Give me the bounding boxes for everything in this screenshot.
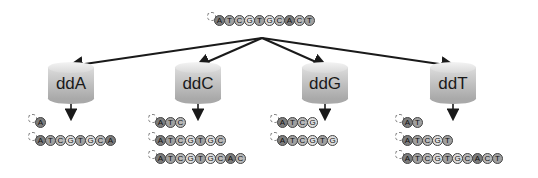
template-strand: ATCGTGCACT <box>207 14 314 27</box>
product-strand: ATCGTGCAC <box>148 152 245 165</box>
reaction-tube-ddG: ddG <box>302 62 348 104</box>
product-strand: ATCG <box>270 116 317 129</box>
tube-label: ddC <box>175 74 221 94</box>
tube-top <box>302 62 348 73</box>
tube-label: ddT <box>430 74 476 94</box>
nucleotide-A: A <box>35 117 46 128</box>
arrow-to-ddT <box>262 38 453 66</box>
nucleotide-G: G <box>307 117 318 128</box>
nucleotide-C: C <box>235 153 246 164</box>
tube-top <box>48 62 94 73</box>
nucleotide-T: T <box>442 135 453 146</box>
nucleotide-T: T <box>412 117 423 128</box>
product-strand: AT <box>395 116 422 129</box>
tube-label: ddA <box>48 74 94 94</box>
nucleotide-C: C <box>175 117 186 128</box>
product-strand: ATCGTG <box>270 134 337 147</box>
tube-top <box>430 62 476 73</box>
reaction-tube-ddT: ddT <box>430 62 476 104</box>
sanger-sequencing-diagram: ATCGTGCACT ddAAATCGTGCAddCATCATCGTGCATCG… <box>0 0 538 178</box>
product-strand: ATCGTGCA <box>28 134 115 147</box>
product-strand: A <box>28 116 45 129</box>
reaction-tube-ddA: ddA <box>48 62 94 104</box>
nucleotide-G: G <box>327 135 338 146</box>
product-strand: ATCGT <box>395 134 452 147</box>
product-strand: ATCGTGCACT <box>395 152 502 165</box>
nucleotide-C: C <box>215 135 226 146</box>
nucleotide-T: T <box>304 15 315 26</box>
product-strand: ATC <box>148 116 185 129</box>
nucleotide-T: T <box>492 153 503 164</box>
nucleotide-A: A <box>105 135 116 146</box>
tube-top <box>175 62 221 73</box>
arrow-to-ddA <box>71 38 262 66</box>
reaction-tube-ddC: ddC <box>175 62 221 104</box>
tube-label: ddG <box>302 74 348 94</box>
product-strand: ATCGTGC <box>148 134 225 147</box>
